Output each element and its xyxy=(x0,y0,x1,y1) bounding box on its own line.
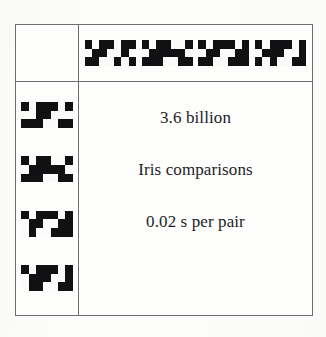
iris-code-cell xyxy=(277,40,284,49)
iris-code-cell xyxy=(43,156,50,165)
iris-code-cell xyxy=(65,228,72,237)
iris-code-top-3 xyxy=(198,40,249,66)
iris-code-cell xyxy=(242,57,249,66)
iris-code-cell xyxy=(29,102,36,111)
iris-code-cell xyxy=(43,165,50,174)
iris-code-cell xyxy=(235,40,242,49)
iris-code-cell xyxy=(107,49,114,58)
iris-code-cell xyxy=(36,228,43,237)
iris-code-cell xyxy=(58,156,65,165)
iris-code-cell xyxy=(163,49,170,58)
iris-code-cell xyxy=(299,57,306,66)
iris-code-cell xyxy=(36,156,43,165)
iris-code-cell xyxy=(65,119,72,128)
iris-code-cell xyxy=(92,57,99,66)
iris-code-cell xyxy=(178,49,185,58)
iris-code-cell xyxy=(299,40,306,49)
iris-code-cell xyxy=(36,119,43,128)
figure-page: 3.6 billion Iris comparisons 0.02 s per … xyxy=(0,0,326,337)
side-code-column xyxy=(16,82,78,315)
iris-code-cell xyxy=(43,265,50,274)
iris-code-cell xyxy=(292,49,299,58)
iris-code-cell xyxy=(65,102,72,111)
iris-code-cell xyxy=(114,57,121,66)
iris-code-cell xyxy=(58,274,65,283)
iris-code-cell xyxy=(85,57,92,66)
result-line-rate: 0.02 s per pair xyxy=(146,212,245,232)
iris-code-cell xyxy=(43,111,50,120)
iris-code-cell xyxy=(270,40,277,49)
iris-code-cell xyxy=(129,57,136,66)
iris-code-cell xyxy=(277,49,284,58)
iris-code-cell xyxy=(171,40,178,49)
iris-code-cell xyxy=(99,49,106,58)
iris-code-cell xyxy=(185,40,192,49)
iris-code-cell xyxy=(99,40,106,49)
iris-code-cell xyxy=(58,119,65,128)
iris-code-cell xyxy=(36,165,43,174)
iris-code-cell xyxy=(65,111,72,120)
result-text-cell: 3.6 billion Iris comparisons 0.02 s per … xyxy=(79,82,312,315)
iris-code-cell xyxy=(185,57,192,66)
iris-code-cell xyxy=(58,228,65,237)
comparison-table: 3.6 billion Iris comparisons 0.02 s per … xyxy=(15,24,313,316)
iris-code-cell xyxy=(121,49,128,58)
iris-code-cell xyxy=(43,282,50,291)
iris-code-cell xyxy=(65,156,72,165)
iris-code-cell xyxy=(121,40,128,49)
iris-code-cell xyxy=(29,219,36,228)
iris-code-cell xyxy=(129,40,136,49)
iris-code-cell xyxy=(21,119,28,128)
iris-code-cell xyxy=(178,40,185,49)
iris-code-cell xyxy=(185,49,192,58)
iris-code-cell xyxy=(220,40,227,49)
iris-code-cell xyxy=(65,282,72,291)
iris-code-cell xyxy=(29,282,36,291)
iris-code-cell xyxy=(270,57,277,66)
iris-code-cell xyxy=(51,119,58,128)
iris-code-cell xyxy=(142,40,149,49)
iris-code-cell xyxy=(121,57,128,66)
iris-code-cell xyxy=(21,156,28,165)
iris-code-cell xyxy=(235,49,242,58)
iris-code-cell xyxy=(262,49,269,58)
iris-code-cell xyxy=(255,40,262,49)
iris-code-cell xyxy=(206,49,213,58)
iris-code-cell xyxy=(29,274,36,283)
iris-code-cell xyxy=(65,165,72,174)
iris-code-cell xyxy=(58,102,65,111)
iris-code-cell xyxy=(51,282,58,291)
iris-code-cell xyxy=(213,49,220,58)
iris-code-cell xyxy=(92,40,99,49)
iris-code-cell xyxy=(114,49,121,58)
iris-code-cell xyxy=(178,57,185,66)
iris-code-cell xyxy=(36,111,43,120)
result-line-subject: Iris comparisons xyxy=(138,160,252,180)
iris-code-cell xyxy=(58,111,65,120)
iris-code-cell xyxy=(149,49,156,58)
iris-code-cell xyxy=(65,274,72,283)
iris-code-cell xyxy=(36,274,43,283)
iris-code-cell xyxy=(43,274,50,283)
iris-code-cell xyxy=(51,274,58,283)
iris-code-cell xyxy=(156,49,163,58)
iris-code-cell xyxy=(242,40,249,49)
iris-code-cell xyxy=(198,57,205,66)
iris-code-cell xyxy=(58,219,65,228)
iris-code-cell xyxy=(21,111,28,120)
iris-code-cell xyxy=(51,165,58,174)
iris-code-cell xyxy=(114,40,121,49)
iris-code-top-1 xyxy=(85,40,136,66)
iris-code-cell xyxy=(292,40,299,49)
iris-code-cell xyxy=(36,282,43,291)
iris-code-cell xyxy=(29,265,36,274)
iris-code-cell xyxy=(171,57,178,66)
iris-code-cell xyxy=(198,49,205,58)
iris-code-cell xyxy=(65,265,72,274)
iris-code-cell xyxy=(43,102,50,111)
iris-code-cell xyxy=(51,111,58,120)
iris-code-cell xyxy=(235,57,242,66)
iris-code-cell xyxy=(58,165,65,174)
iris-code-side-3 xyxy=(21,211,72,237)
iris-code-cell xyxy=(58,174,65,183)
